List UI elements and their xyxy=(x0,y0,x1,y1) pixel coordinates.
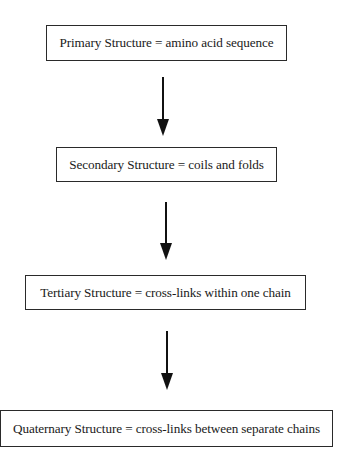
quaternary-structure-label: Quaternary Structure = cross-links betwe… xyxy=(13,421,320,437)
quaternary-structure-box: Quaternary Structure = cross-links betwe… xyxy=(0,410,333,447)
arrow-down-icon xyxy=(161,331,173,390)
tertiary-structure-label: Tertiary Structure = cross-links within … xyxy=(40,285,291,301)
arrow-down-icon xyxy=(160,202,172,260)
secondary-structure-box: Secondary Structure = coils and folds xyxy=(56,147,277,182)
primary-structure-box: Primary Structure = amino acid sequence xyxy=(46,25,287,61)
secondary-structure-label: Secondary Structure = coils and folds xyxy=(69,157,264,173)
arrow-down-icon xyxy=(157,77,169,136)
tertiary-structure-box: Tertiary Structure = cross-links within … xyxy=(25,275,306,310)
primary-structure-label: Primary Structure = amino acid sequence xyxy=(59,35,273,51)
